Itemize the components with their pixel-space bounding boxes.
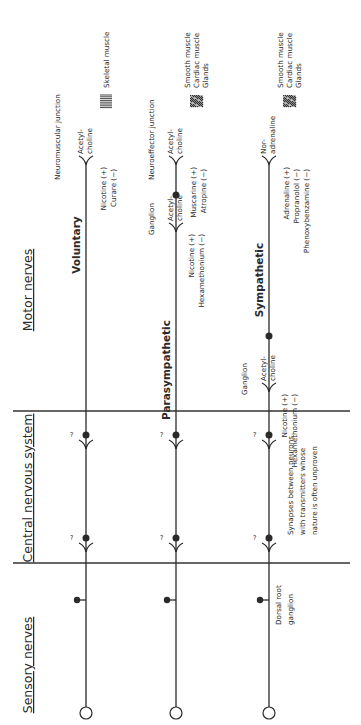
drug-label: Atropine (−) bbox=[199, 169, 208, 213]
target-tissue-label: Smooth muscle bbox=[183, 32, 192, 88]
effector-synapse-voluntary bbox=[79, 156, 93, 165]
transmitter-label: Nor- bbox=[259, 139, 268, 154]
drug-label: Nicotine (+) bbox=[280, 394, 289, 438]
target-tissue-label: Smooth muscle bbox=[276, 32, 285, 88]
smooth-tissue-icon bbox=[190, 95, 203, 107]
sensory-receptor-circle bbox=[80, 707, 92, 719]
cns-terminal-dot bbox=[173, 535, 180, 542]
drug-label: Phenoxybenzamine (−) bbox=[302, 169, 311, 253]
drug-label: Nicotine (+) bbox=[187, 234, 196, 278]
transmitter-label: adrenaline bbox=[268, 115, 277, 154]
drug-label: Nicotine (+) bbox=[99, 167, 108, 211]
preganglionic-terminal-dot bbox=[266, 333, 273, 340]
dorsal-root-ganglion-dot bbox=[74, 597, 80, 603]
target-tissue-label: Cardiac muscle bbox=[192, 32, 201, 88]
unknown-transmitter-mark: ? bbox=[70, 534, 73, 542]
cns-terminal-dot bbox=[266, 535, 273, 542]
drug-label: Hexamethonium (−) bbox=[197, 234, 206, 308]
dorsal-root-ganglion-dot bbox=[257, 597, 263, 603]
drug-label: Curare (−) bbox=[109, 169, 118, 207]
dorsal-root-ganglion-dot bbox=[164, 597, 170, 603]
cns-note-line: with transmitters whose bbox=[298, 447, 307, 535]
drug-label: Adrenaline (+) bbox=[282, 167, 291, 220]
target-tissue-label: Glands bbox=[201, 63, 210, 88]
transmitter-label: Acetyl- bbox=[166, 129, 175, 154]
ganglion-label: Ganglion bbox=[147, 203, 156, 235]
nervous-system-transmitter-diagram: Motor nervesCentral nervous systemSensor… bbox=[0, 0, 361, 725]
section-title-motor: Motor nerves bbox=[20, 249, 35, 331]
effector-synapse-sympathetic bbox=[262, 156, 276, 165]
junction-label: Neuroeffector junction bbox=[147, 99, 156, 180]
unknown-transmitter-mark: ? bbox=[253, 534, 256, 542]
section-title-sensory: Sensory nerves bbox=[20, 617, 35, 714]
drug-label: Propranolol (−) bbox=[292, 169, 301, 224]
section-title-cns: Central nervous system bbox=[20, 414, 35, 563]
cns-note-line: Synapses between neurons bbox=[286, 436, 295, 535]
transmitter-label: choline bbox=[175, 195, 184, 221]
transmitter-label: Acetyl- bbox=[166, 196, 175, 221]
effector-synapse-parasympathetic bbox=[169, 156, 183, 165]
sensory-receptor-circle bbox=[170, 707, 182, 719]
diagram-canvas: Motor nervesCentral nervous systemSensor… bbox=[0, 0, 361, 725]
unknown-transmitter-mark: ? bbox=[253, 431, 256, 439]
smooth-tissue-icon bbox=[283, 95, 296, 107]
transmitter-label: Acetyl- bbox=[76, 129, 85, 154]
target-tissue-label: Skeletal muscle bbox=[102, 31, 111, 88]
pathway-label-sympathetic: Sympathetic bbox=[253, 243, 265, 317]
transmitter-label: choline bbox=[175, 128, 184, 154]
pathway-label-voluntary: Voluntary bbox=[70, 216, 82, 274]
dorsal-root-ganglion-label: ganglion bbox=[286, 594, 295, 625]
target-tissue-label: Glands bbox=[294, 63, 303, 88]
dorsal-root-ganglion-label: Dorsal root bbox=[274, 585, 283, 625]
target-tissue-label: Cardiac muscle bbox=[285, 32, 294, 88]
pathway-label-parasympathetic: Parasympathetic bbox=[160, 320, 172, 420]
drug-label: Muscarine (+) bbox=[189, 167, 198, 218]
cns-note-line: nature is often unproven bbox=[310, 446, 319, 535]
unknown-transmitter-mark: ? bbox=[160, 431, 163, 439]
unknown-transmitter-mark: ? bbox=[70, 431, 73, 439]
ganglion-label: Ganglion bbox=[240, 363, 249, 395]
skeletal-muscle-icon bbox=[100, 95, 112, 108]
sensory-receptor-circle bbox=[263, 707, 275, 719]
transmitter-label: choline bbox=[268, 355, 277, 381]
cns-terminal-dot bbox=[83, 432, 90, 439]
junction-label: Neuromuscular junction bbox=[53, 94, 62, 180]
cns-terminal-dot bbox=[173, 432, 180, 439]
transmitter-label: Acetyl- bbox=[259, 356, 268, 381]
cns-terminal-dot bbox=[266, 432, 273, 439]
transmitter-label: choline bbox=[85, 128, 94, 154]
unknown-transmitter-mark: ? bbox=[160, 534, 163, 542]
cns-terminal-dot bbox=[83, 535, 90, 542]
